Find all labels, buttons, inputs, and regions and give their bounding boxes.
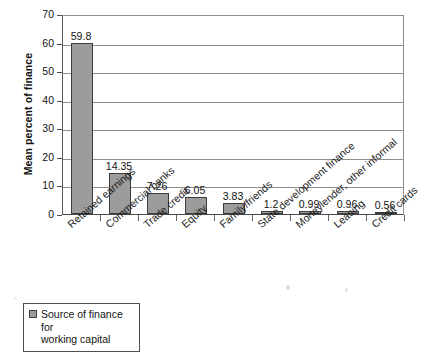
gridline bbox=[63, 45, 403, 46]
y-axis-tick-label: 60 bbox=[28, 37, 54, 49]
x-axis-tick-mark bbox=[290, 215, 291, 221]
legend-swatch-icon bbox=[29, 310, 37, 318]
legend: Source of finance forworking capital bbox=[23, 303, 140, 352]
x-axis-tick-mark bbox=[138, 215, 139, 221]
x-axis-tick-mark bbox=[366, 215, 367, 221]
scan-speckle bbox=[345, 288, 348, 292]
y-axis-tick-label: 70 bbox=[28, 8, 54, 20]
y-axis-tick-label: 0 bbox=[28, 208, 54, 220]
y-axis-tick-mark bbox=[57, 215, 62, 216]
y-axis-tick-label: 40 bbox=[28, 94, 54, 106]
y-axis-tick-label: 10 bbox=[28, 179, 54, 191]
y-axis-tick-label: 20 bbox=[28, 151, 54, 163]
scan-speckle bbox=[14, 297, 17, 300]
bar-chart: Mean percent of finance 010203040506070 … bbox=[0, 0, 428, 355]
x-axis-tick-mark bbox=[404, 215, 405, 221]
bar-value-label: 59.8 bbox=[71, 30, 91, 42]
scan-speckle bbox=[286, 285, 290, 290]
legend-label-line1: Source of finance for bbox=[41, 308, 123, 333]
legend-label-line2: working capital bbox=[41, 333, 110, 345]
x-axis-tick-mark bbox=[176, 215, 177, 221]
legend-item-label: Source of finance forworking capital bbox=[41, 308, 134, 346]
x-axis-tick-mark bbox=[328, 215, 329, 221]
y-axis-title: Mean percent of finance bbox=[22, 24, 34, 204]
legend-item: Source of finance forworking capital bbox=[29, 308, 134, 346]
x-axis-tick-mark bbox=[214, 215, 215, 221]
bar bbox=[71, 43, 93, 214]
y-axis-tick-label: 30 bbox=[28, 122, 54, 134]
y-axis-tick-label: 50 bbox=[28, 65, 54, 77]
gridline bbox=[63, 102, 403, 103]
gridline bbox=[63, 73, 403, 74]
gridline bbox=[63, 130, 403, 131]
x-axis-tick-mark bbox=[252, 215, 253, 221]
x-axis-tick-mark bbox=[100, 215, 101, 221]
